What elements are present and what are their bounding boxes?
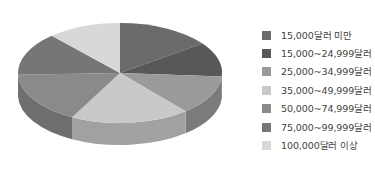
legend-item[interactable]: 75,000~99,999달러 xyxy=(262,118,375,136)
chart-legend: 15,000달러 미만 15,000~24,999달러 25,000~34,99… xyxy=(262,26,375,166)
legend-swatch-icon xyxy=(262,86,271,95)
legend-swatch-icon xyxy=(262,123,271,132)
legend-item[interactable]: 25,000~34,999달러 xyxy=(262,63,375,81)
pie-chart-3d xyxy=(0,0,240,171)
legend-item[interactable]: 50,000~74,999달러 xyxy=(262,100,375,118)
legend-item-label: 15,000달러 미만 xyxy=(281,30,352,41)
legend-swatch-icon xyxy=(262,67,271,76)
legend-item[interactable]: 15,000~24,999달러 xyxy=(262,44,375,62)
pie-chart-plot-area xyxy=(0,0,240,171)
legend-item-label: 35,000~49,999달러 xyxy=(281,85,372,96)
pie-top-slices xyxy=(18,23,222,123)
legend-item-label: 15,000~24,999달러 xyxy=(281,48,372,59)
legend-swatch-icon xyxy=(262,49,271,58)
legend-item-label: 75,000~99,999달러 xyxy=(281,122,372,133)
legend-swatch-icon xyxy=(262,31,271,40)
legend-item-label: 25,000~34,999달러 xyxy=(281,66,372,77)
legend-swatch-icon xyxy=(262,104,271,113)
legend-item-label: 50,000~74,999달러 xyxy=(281,103,372,114)
legend-item[interactable]: 15,000달러 미만 xyxy=(262,26,375,44)
legend-swatch-icon xyxy=(262,141,271,150)
legend-item-label: 100,000달러 이상 xyxy=(281,140,358,151)
pie-chart-figure: 15,000달러 미만 15,000~24,999달러 25,000~34,99… xyxy=(0,0,375,171)
legend-item[interactable]: 35,000~49,999달러 xyxy=(262,81,375,99)
legend-item[interactable]: 100,000달러 이상 xyxy=(262,136,375,154)
